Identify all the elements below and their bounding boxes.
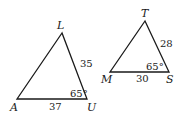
triangles-diagram: L A U 35 37 65° T M S 28 30 65° bbox=[0, 0, 181, 117]
vertex-label-A: A bbox=[9, 101, 18, 114]
vertex-label-T: T bbox=[141, 7, 150, 20]
side-length-MS: 30 bbox=[136, 73, 149, 84]
angle-measure-U: 65° bbox=[70, 88, 88, 99]
side-length-LU: 35 bbox=[80, 58, 93, 69]
vertex-label-U: U bbox=[87, 101, 97, 114]
side-length-TS: 28 bbox=[160, 38, 173, 49]
figure: L A U 35 37 65° T M S 28 30 65° bbox=[0, 0, 181, 117]
angle-measure-S: 65° bbox=[146, 61, 164, 72]
vertex-label-M: M bbox=[100, 73, 113, 86]
vertex-label-L: L bbox=[56, 19, 64, 32]
side-length-AU: 37 bbox=[49, 101, 62, 112]
vertex-label-S: S bbox=[166, 73, 174, 86]
